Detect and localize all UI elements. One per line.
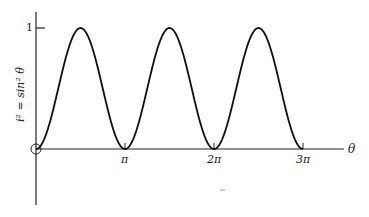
y-tick-label-1: 1	[26, 22, 33, 33]
x-tick-label-pi: π	[121, 154, 128, 165]
x-tick-label-3pi: 3π	[296, 154, 310, 165]
x-tick-label-2pi: 2π	[207, 154, 221, 165]
y-axis-label: i² = sin² θ	[14, 67, 27, 122]
x-axis-label: θ	[348, 143, 355, 155]
y-axis-label-text: i² = sin² θ	[14, 67, 27, 122]
chart-canvas	[0, 0, 369, 217]
sin-squared-curve	[36, 28, 303, 149]
